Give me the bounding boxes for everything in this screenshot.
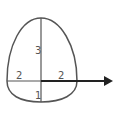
label-right-semi-axis: 2: [58, 70, 64, 81]
label-left-semi-axis: 2: [16, 70, 22, 81]
egg-outline: [7, 18, 77, 102]
label-bottom-semi-axis: 1: [35, 90, 41, 101]
arrowhead-icon: [104, 76, 113, 86]
label-top-semi-axis: 3: [35, 45, 41, 56]
egg-curve-diagram: 3 2 2 1: [0, 0, 123, 117]
